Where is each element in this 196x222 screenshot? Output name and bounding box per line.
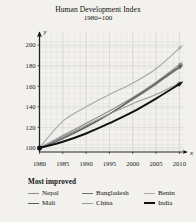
svg-text:100: 100 [26, 144, 37, 151]
legend-item-india[interactable]: India [144, 199, 196, 207]
svg-text:160: 160 [26, 83, 37, 90]
legend-label-mali: Mali [42, 199, 55, 207]
y-axis-tick-labels: 100120140160180200 [26, 41, 37, 151]
svg-text:140: 140 [26, 103, 37, 110]
legend-swatch-mali [28, 203, 39, 204]
x-axis-tick-labels: 1980198519901995200020052010 [33, 160, 187, 167]
legend-swatch-india [144, 202, 155, 204]
legend-swatch-bangladesh [82, 193, 93, 194]
svg-text:2000: 2000 [126, 160, 140, 167]
legend-item-nepal[interactable]: Nepal [28, 189, 82, 197]
svg-text:2005: 2005 [149, 160, 163, 167]
svg-text:1995: 1995 [103, 160, 117, 167]
svg-text:1985: 1985 [56, 160, 70, 167]
chart-container: Human Development Index 1980=100 1001201… [0, 0, 196, 222]
legend-title: Most improved [28, 178, 196, 186]
legend-item-bangladesh[interactable]: Bangladesh [82, 189, 144, 197]
legend-label-nepal: Nepal [42, 189, 59, 197]
legend-swatch-china [82, 203, 93, 204]
legend-label-china: China [96, 199, 113, 207]
x-axis-label: x [189, 149, 194, 157]
svg-text:1990: 1990 [80, 160, 94, 167]
svg-text:200: 200 [26, 41, 37, 48]
chart-legend: Most improved NepalBangladeshBeninMaliCh… [28, 178, 196, 207]
origin-marker [37, 145, 42, 150]
legend-label-benin: Benin [158, 189, 175, 197]
legend-item-china[interactable]: China [82, 199, 144, 207]
y-axis-label: y [43, 28, 48, 36]
legend-swatch-benin [144, 193, 155, 194]
svg-text:120: 120 [26, 124, 37, 131]
svg-text:1980: 1980 [33, 160, 47, 167]
legend-items: NepalBangladeshBeninMaliChinaIndia [28, 189, 196, 207]
legend-label-bangladesh: Bangladesh [96, 189, 129, 197]
legend-item-benin[interactable]: Benin [144, 189, 196, 197]
legend-label-india: India [158, 199, 172, 207]
svg-text:2010: 2010 [173, 160, 187, 167]
gridlines [40, 33, 185, 152]
svg-text:180: 180 [26, 62, 37, 69]
legend-swatch-nepal [28, 193, 39, 194]
legend-item-mali[interactable]: Mali [28, 199, 82, 207]
